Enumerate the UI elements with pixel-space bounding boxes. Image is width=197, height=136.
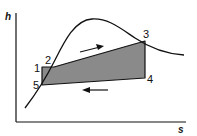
point-label-4: 4 — [147, 73, 153, 85]
y-axis-label: h — [5, 11, 11, 22]
return-arrow — [82, 87, 108, 93]
cycle-area — [42, 41, 145, 85]
point-label-5: 5 — [33, 79, 39, 91]
point-label-2: 2 — [45, 54, 51, 66]
point-label-3: 3 — [143, 28, 149, 40]
hs-diagram: h s 1 2 3 4 5 — [0, 0, 197, 136]
x-axis-label: s — [178, 124, 184, 135]
point-label-1: 1 — [34, 62, 40, 74]
forward-arrow — [80, 44, 104, 52]
